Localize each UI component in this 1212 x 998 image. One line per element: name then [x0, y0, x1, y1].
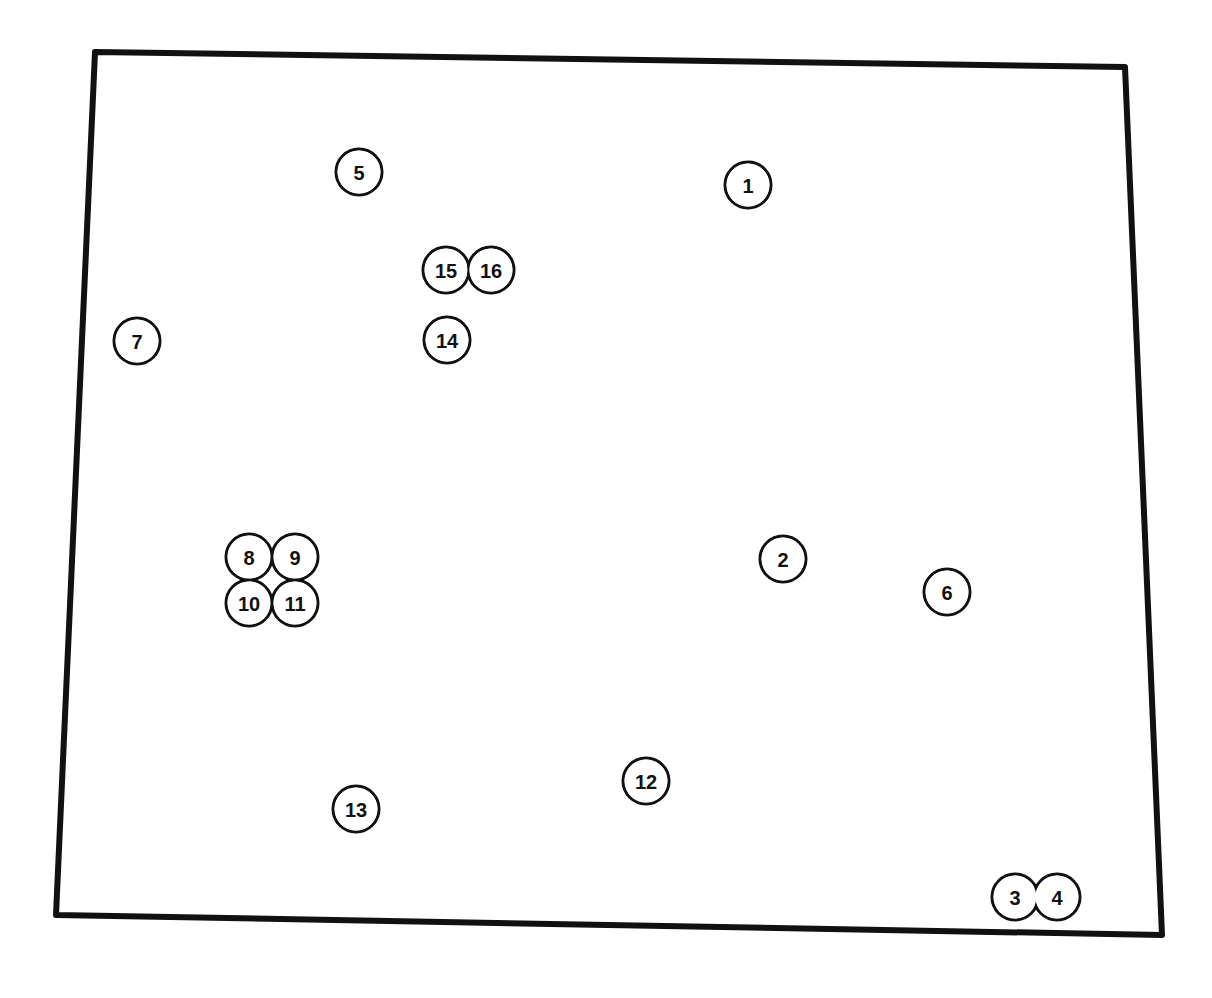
map-marker-10[interactable]: 10: [238, 593, 260, 615]
map-marker-12[interactable]: 12: [635, 771, 657, 793]
marker-label: 1: [742, 175, 753, 197]
marker-label: 12: [635, 771, 657, 793]
map-marker-1[interactable]: 1: [742, 175, 753, 197]
marker-backgrounds: [114, 149, 1080, 920]
map-marker-7[interactable]: 7: [131, 331, 142, 353]
marker-label: 8: [243, 547, 254, 569]
map-marker-8[interactable]: 8: [243, 547, 254, 569]
marker-layer: 12345678910111213141516: [131, 162, 1063, 909]
marker-label: 3: [1009, 887, 1020, 909]
marker-label: 2: [777, 549, 788, 571]
marker-label: 4: [1051, 887, 1063, 909]
map-marker-4[interactable]: 4: [1051, 887, 1063, 909]
map-marker-15[interactable]: 15: [435, 260, 457, 282]
marker-label: 15: [435, 260, 457, 282]
map-marker-14[interactable]: 14: [436, 330, 459, 352]
map-canvas: 12345678910111213141516: [0, 0, 1212, 998]
map-marker-5[interactable]: 5: [353, 162, 364, 184]
marker-label: 11: [284, 593, 305, 615]
marker-label: 10: [238, 593, 260, 615]
region-boundary: [56, 52, 1162, 935]
marker-label: 13: [345, 799, 367, 821]
map-marker-11[interactable]: 11: [284, 593, 305, 615]
marker-label: 6: [941, 582, 952, 604]
map-marker-3[interactable]: 3: [1009, 887, 1020, 909]
map-marker-16[interactable]: 16: [480, 260, 502, 282]
map-marker-13[interactable]: 13: [345, 799, 367, 821]
marker-label: 7: [131, 331, 142, 353]
marker-label: 16: [480, 260, 502, 282]
map-marker-6[interactable]: 6: [941, 582, 952, 604]
map-marker-2[interactable]: 2: [777, 549, 788, 571]
map-marker-9[interactable]: 9: [289, 547, 300, 569]
marker-label: 9: [289, 547, 300, 569]
marker-label: 5: [353, 162, 364, 184]
marker-label: 14: [436, 330, 459, 352]
